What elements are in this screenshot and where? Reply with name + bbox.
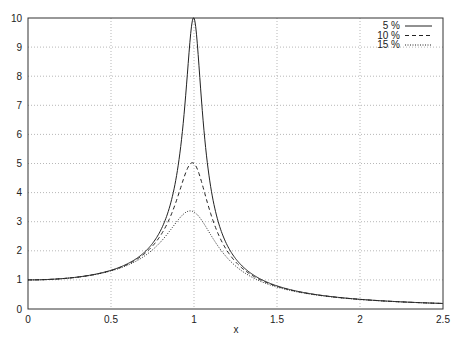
- y-tick-label: 5: [16, 158, 22, 169]
- curve-15-pct: [28, 211, 443, 304]
- y-tick-label: 0: [16, 304, 22, 315]
- y-tick-label: 1: [16, 274, 22, 285]
- x-tick-label: 0: [25, 314, 31, 325]
- plot-curves: [28, 18, 443, 304]
- y-tick-label: 10: [11, 13, 23, 24]
- x-axis-label: x: [234, 324, 239, 335]
- x-tick-label: 1: [191, 314, 197, 325]
- resonance-chart: 00.511.522.5 012345678910 x 5 %10 %15 %: [0, 0, 462, 347]
- x-tick-label: 2: [357, 314, 363, 325]
- x-tick-label: 2.5: [436, 314, 450, 325]
- y-tick-label: 4: [16, 187, 22, 198]
- y-tick-label: 7: [16, 100, 22, 111]
- y-tick-label: 6: [16, 129, 22, 140]
- x-tick-label: 1.5: [270, 314, 284, 325]
- curve-5-pct: [28, 18, 443, 303]
- x-tick-label: 0.5: [104, 314, 118, 325]
- y-tick-label: 9: [16, 42, 22, 53]
- y-tick-label: 3: [16, 216, 22, 227]
- y-tick-label: 2: [16, 245, 22, 256]
- curve-10-pct: [28, 163, 443, 304]
- y-axis-ticks: 012345678910: [11, 13, 23, 315]
- legend-label: 15 %: [377, 39, 400, 50]
- y-tick-label: 8: [16, 71, 22, 82]
- legend: 5 %10 %15 %: [377, 20, 432, 50]
